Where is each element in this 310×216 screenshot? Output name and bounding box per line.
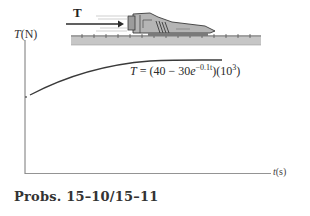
x-axis-unit: (s) xyxy=(276,166,287,177)
thrust-equation: T = (40 − 30e−0.1t)(103) xyxy=(130,63,240,79)
rocket-train-icon xyxy=(128,13,215,36)
graph-axes xyxy=(25,40,271,174)
equation-part-1: = (40 − 30 xyxy=(137,64,191,78)
y-axis-unit: (N) xyxy=(21,27,38,41)
equation-part-2: )(10 xyxy=(212,64,232,78)
figure-caption: Probs. 15–10/15–11 xyxy=(14,189,158,204)
force-label: T xyxy=(73,5,82,21)
diagram-graphics xyxy=(0,0,310,216)
y-axis-label: T(N) xyxy=(14,27,37,42)
equation-end: ) xyxy=(236,64,240,78)
thrust-arrow-icon xyxy=(66,21,124,28)
x-axis-label: t(s) xyxy=(273,166,286,177)
equation-lhs: T xyxy=(130,64,137,78)
y-axis-var: T xyxy=(14,27,21,41)
equation-exponent: −0.1t xyxy=(196,63,213,72)
